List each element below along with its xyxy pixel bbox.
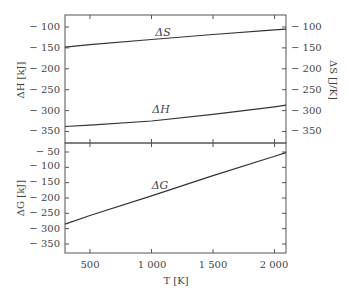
tick-label: − 300 bbox=[29, 223, 60, 234]
curve-label-dS: ΔS bbox=[154, 26, 171, 39]
tick-label: − 250 bbox=[29, 207, 60, 218]
tick-marks bbox=[65, 15, 286, 253]
tick-label: − 100 bbox=[291, 21, 322, 32]
y-axis-label-dH: ΔH [kJ] bbox=[15, 61, 26, 98]
tick-label: − 150 bbox=[291, 42, 322, 53]
tick-label: − 350 bbox=[29, 125, 60, 136]
tick-label: − 200 bbox=[291, 63, 322, 74]
tick-label: − 200 bbox=[29, 63, 60, 74]
tick-label: − 150 bbox=[29, 42, 60, 53]
x-tick-labels: 500 1 000 1 500 2 000 bbox=[80, 259, 288, 270]
bottom-left-tick-labels: − 50 − 100 − 150 − 200 − 250 − 300 − 350 bbox=[29, 146, 60, 249]
top-right-tick-labels: − 100 − 150 − 200 − 250 − 300 − 350 bbox=[291, 21, 322, 136]
bottom-panel-frame bbox=[65, 143, 286, 253]
tick-label: − 350 bbox=[29, 238, 60, 249]
tick-label: − 300 bbox=[29, 105, 60, 116]
curve-dH bbox=[65, 105, 286, 126]
tick-label: 1 000 bbox=[138, 259, 167, 270]
curve-dS bbox=[65, 29, 286, 47]
top-panel-frame bbox=[65, 15, 286, 143]
tick-label: − 350 bbox=[291, 125, 322, 136]
curve-dG bbox=[65, 153, 286, 225]
tick-label: − 250 bbox=[291, 84, 322, 95]
y-axis-label-dS: ΔS [J/K] bbox=[328, 60, 339, 100]
thermo-chart: − 100 − 150 − 200 − 250 − 300 − 350 − 10… bbox=[0, 0, 349, 298]
curve-label-dG: ΔG bbox=[151, 179, 169, 192]
tick-label: 500 bbox=[80, 259, 99, 270]
curve-label-dH: ΔH bbox=[151, 103, 170, 116]
tick-label: − 50 bbox=[36, 146, 60, 157]
tick-label: 1 500 bbox=[199, 259, 228, 270]
y-axis-label-dG: ΔG [kJ] bbox=[15, 180, 26, 216]
tick-label: − 100 bbox=[29, 160, 60, 171]
tick-label: − 150 bbox=[29, 176, 60, 187]
tick-label: − 250 bbox=[29, 84, 60, 95]
tick-label: − 100 bbox=[29, 21, 60, 32]
tick-label: − 200 bbox=[29, 192, 60, 203]
top-left-tick-labels: − 100 − 150 − 200 − 250 − 300 − 350 bbox=[29, 21, 60, 136]
tick-label: 2 000 bbox=[260, 259, 289, 270]
curves bbox=[65, 29, 286, 224]
tick-label: − 300 bbox=[291, 105, 322, 116]
x-axis-label: T [K] bbox=[163, 275, 188, 286]
